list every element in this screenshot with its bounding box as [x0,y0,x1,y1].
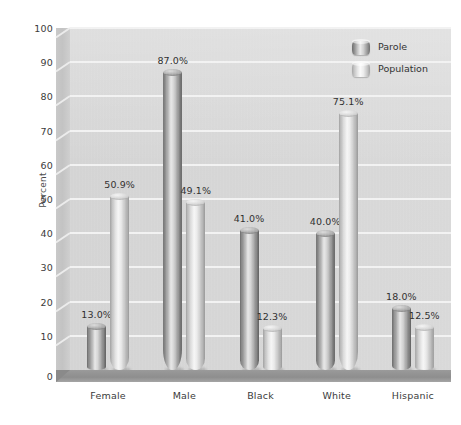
gridline-wall [55,335,70,346]
bar-body [87,326,106,370]
y-axis-tick-label: 90 [3,57,53,68]
bar-value-label: 87.0% [157,55,188,66]
legend-label: Population [378,63,428,74]
gridline-wall [55,301,70,312]
bar-body [392,308,411,370]
gridline-wall [55,130,70,141]
y-axis-tick-label: 70 [3,125,53,136]
bar-white-population[interactable] [339,113,358,370]
gridline-wall [55,232,70,243]
bar-value-label: 50.9% [104,179,135,190]
bar-value-label: 18.0% [386,291,417,302]
chart-left-wall [56,28,70,370]
gridline [70,130,451,132]
legend: Parole Population [352,38,448,82]
y-axis-tick-label: 100 [3,23,53,34]
bar-top-ellipse [339,110,358,117]
gridline [70,27,451,29]
y-axis-tick-label: 80 [3,91,53,102]
x-axis-tick-label: Black [247,390,274,401]
bar-female-parole[interactable] [87,326,106,370]
bar-male-parole[interactable] [163,72,182,370]
bar-top-ellipse [415,324,434,331]
bar-body [263,328,282,370]
bar-value-label: 41.0% [234,213,265,224]
bar-white-parole[interactable] [316,233,335,370]
bar-female-population[interactable] [110,196,129,370]
bar-hispanic-population[interactable] [415,327,434,370]
bar-black-parole[interactable] [240,230,259,370]
y-axis-tick-labels: 0102030405060708090100 [0,0,53,425]
bar-top-ellipse [186,199,205,206]
gridline-wall [55,27,70,38]
bar-top-ellipse [392,305,411,312]
bar-body [339,113,358,370]
y-axis-tick-label: 60 [3,159,53,170]
gridline [70,95,451,97]
chart-floor-corner [56,370,70,382]
bar-body [163,72,182,370]
y-axis-tick-label: 0 [3,371,53,382]
legend-item-population[interactable]: Population [352,60,448,82]
gridline-wall [55,164,70,175]
bar-body [316,233,335,370]
bar-body [186,202,205,370]
bar-value-label: 13.0% [81,309,112,320]
bar-male-population[interactable] [186,202,205,370]
x-axis-tick-label: Female [90,390,126,401]
bar-body [110,196,129,370]
bar-top-ellipse [110,193,129,200]
gridline [70,164,451,166]
bar-value-label: 12.3% [257,311,288,322]
bar-chart: Percent 0102030405060708090100 13.0%50.9… [0,0,461,425]
bar-value-label: 75.1% [333,96,364,107]
y-axis-tick-label: 20 [3,296,53,307]
gridline-wall [55,61,70,72]
bar-top-ellipse [240,227,259,234]
y-axis-tick-label: 30 [3,262,53,273]
bar-hispanic-parole[interactable] [392,308,411,370]
bar-value-label: 12.5% [409,310,440,321]
legend-label: Parole [378,41,407,52]
gridline-wall [55,267,70,278]
bar-top-ellipse [316,230,335,237]
bar-top-ellipse [263,325,282,332]
bar-value-label: 40.0% [310,216,341,227]
y-axis-tick-label: 40 [3,228,53,239]
x-axis-tick-label: White [322,390,351,401]
x-axis-tick-label: Male [173,390,196,401]
cylinder-dark-icon [352,41,370,55]
chart-floor [56,370,451,382]
gridline-wall [55,198,70,209]
x-axis-tick-label: Hispanic [392,390,434,401]
bar-top-ellipse [87,323,106,330]
bar-body [415,327,434,370]
gridline-wall [55,96,70,107]
y-axis-tick-label: 10 [3,330,53,341]
bar-value-label: 49.1% [180,185,211,196]
bar-top-ellipse [163,69,182,76]
bar-black-population[interactable] [263,328,282,370]
bar-body [240,230,259,370]
cylinder-light-icon [352,63,370,77]
y-axis-tick-label: 50 [3,194,53,205]
legend-item-parole[interactable]: Parole [352,38,448,60]
